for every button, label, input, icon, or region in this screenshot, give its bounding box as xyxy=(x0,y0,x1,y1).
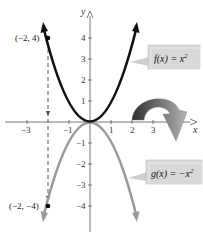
y-tick-label: −3 xyxy=(76,180,86,190)
x-axis-label: x xyxy=(192,124,198,135)
g-label-exponent: 2 xyxy=(190,167,194,175)
y-tick-label: 4 xyxy=(81,33,86,43)
f-curve-arrow-left-icon xyxy=(41,22,49,33)
point-top-label: (−2, 4) xyxy=(15,33,40,43)
y-tick-label: 3 xyxy=(81,54,86,64)
f-label-text: f(x) = x xyxy=(154,53,185,65)
f-label-exponent: 2 xyxy=(184,52,188,60)
x-tick-label: 2 xyxy=(130,125,135,135)
g-label-callout: g(x) = −x2 xyxy=(128,160,202,184)
svg-text:f(x) = x2: f(x) = x2 xyxy=(154,52,188,65)
x-tick-label: 3 xyxy=(151,125,156,135)
point-bottom xyxy=(46,204,51,209)
x-tick-label: 1 xyxy=(109,125,114,135)
point-bottom-label: (−2, −4) xyxy=(9,201,39,211)
x-tick-label: −1 xyxy=(63,125,73,135)
g-curve-arrow-right-icon xyxy=(132,211,140,222)
g-curve-arrow-left-icon xyxy=(41,211,49,222)
f-curve-arrow-right-icon xyxy=(132,22,140,33)
point-top xyxy=(46,36,51,41)
svg-text:g(x) = −x2: g(x) = −x2 xyxy=(151,167,194,180)
curved-reflection-arrow-icon xyxy=(132,99,187,141)
y-tick-label: −2 xyxy=(76,159,86,169)
y-axis-label: y xyxy=(80,6,86,17)
y-tick-label: 1 xyxy=(81,96,86,106)
dashed-reflection-arrow xyxy=(46,42,50,201)
x-tick-label: −3 xyxy=(21,125,31,135)
y-tick-label: 2 xyxy=(81,75,86,85)
graph-canvas: x −3 −1 1 2 3 y 4 3 2 1 −1 −2 −3 −4 xyxy=(0,0,203,240)
y-tick-label: −4 xyxy=(76,201,86,211)
g-label-text: g(x) = −x xyxy=(151,168,191,180)
f-label-callout: f(x) = x2 xyxy=(130,45,200,69)
y-tick-label: −1 xyxy=(76,138,86,148)
